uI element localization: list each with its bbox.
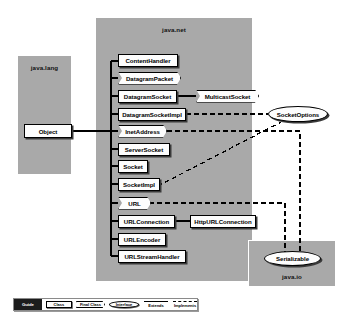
legend-class-swatch: Class xyxy=(46,301,72,308)
node-datagram-socket-impl[interactable]: DatagramSocketImpl xyxy=(118,108,186,121)
legend-item-implements: Implements xyxy=(173,301,197,308)
connector-layer xyxy=(0,0,347,319)
legend-extends-label: Extends xyxy=(148,303,164,308)
legend-guide-label: Guide xyxy=(14,299,42,310)
edge-url-to-serializable xyxy=(149,203,285,252)
legend-implements-label: Implements xyxy=(174,303,196,308)
node-serializable[interactable]: Serializable xyxy=(264,251,321,266)
node-multicast-socket-label: MulticastSocket xyxy=(205,93,251,100)
node-http-url-connection[interactable]: HttpURLConnection xyxy=(190,215,256,228)
node-datagram-socket-impl-label: DatagramSocketImpl xyxy=(122,111,182,118)
legend-interface-label: Interface xyxy=(116,302,133,307)
legend-final-class-swatch: Final Class xyxy=(76,301,105,308)
node-datagram-packet[interactable]: DatagramPacket xyxy=(118,72,181,85)
diagram-canvas: java.lang java.net java.io xyxy=(0,0,347,319)
legend-item-class: Class xyxy=(46,301,72,308)
node-url-connection-label: URLConnection xyxy=(124,218,169,225)
legend-item-extends: Extends xyxy=(144,301,168,308)
edge-inet-address-to-serializable xyxy=(167,131,300,252)
node-socket[interactable]: Socket xyxy=(118,160,148,173)
legend: Guide Class Final Class Interface Extend… xyxy=(13,298,198,311)
legend-item-interface: Interface xyxy=(109,301,139,308)
node-datagram-socket-label: DatagramSocket xyxy=(124,93,171,100)
legend-interface-swatch: Interface xyxy=(109,301,139,308)
node-url-stream-handler-label: URLStreamHandler xyxy=(124,253,179,260)
node-serializable-label: Serializable xyxy=(276,255,309,262)
node-socket-options[interactable]: SocketOptions xyxy=(268,106,328,122)
node-server-socket[interactable]: ServerSocket xyxy=(118,143,170,156)
node-url[interactable]: URL xyxy=(118,197,151,210)
legend-item-final-class: Final Class xyxy=(76,301,105,308)
node-socket-impl[interactable]: SocketImpl xyxy=(118,178,160,191)
node-datagram-packet-label: DatagramPacket xyxy=(126,75,173,82)
node-socket-options-label: SocketOptions xyxy=(277,111,319,118)
node-url-encoder-label: URLEncoder xyxy=(124,236,160,243)
node-server-socket-label: ServerSocket xyxy=(125,146,163,153)
node-socket-label: Socket xyxy=(123,163,143,170)
legend-class-label: Class xyxy=(54,302,65,307)
node-inet-address-label: InetAddress xyxy=(125,128,160,135)
node-datagram-socket[interactable]: DatagramSocket xyxy=(118,90,177,103)
node-http-url-connection-label: HttpURLConnection xyxy=(194,218,251,225)
node-content-handler-label: ContentHandler xyxy=(125,57,170,64)
node-socket-impl-label: SocketImpl xyxy=(123,181,155,188)
node-url-stream-handler[interactable]: URLStreamHandler xyxy=(118,250,186,263)
node-url-connection[interactable]: URLConnection xyxy=(118,215,175,228)
node-url-label: URL xyxy=(128,200,140,207)
node-content-handler[interactable]: ContentHandler xyxy=(118,54,178,67)
node-url-encoder[interactable]: URLEncoder xyxy=(118,233,166,246)
legend-final-class-label: Final Class xyxy=(80,302,101,307)
node-object-label: Object xyxy=(39,128,58,135)
node-object[interactable]: Object xyxy=(24,124,72,138)
node-inet-address[interactable]: InetAddress xyxy=(118,125,167,138)
node-multicast-socket[interactable]: MulticastSocket xyxy=(196,90,259,103)
